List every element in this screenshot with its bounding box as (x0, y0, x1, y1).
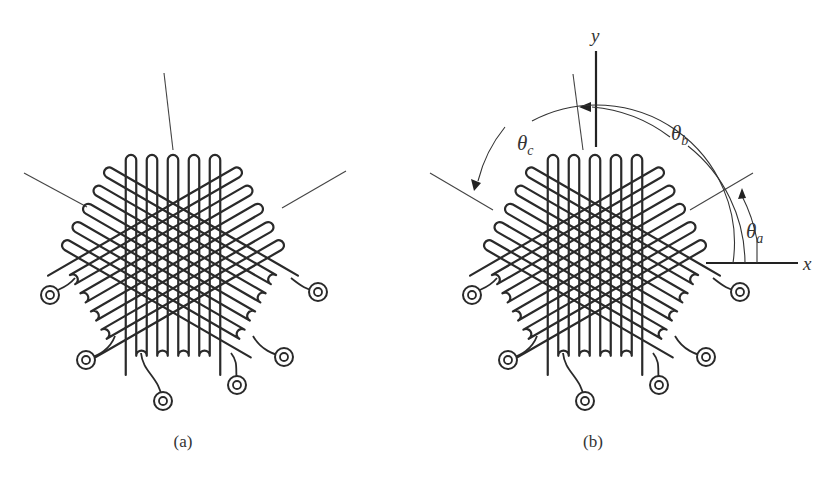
theta-a-label: θa (746, 219, 763, 246)
solder-pad-center (736, 288, 744, 296)
y-axis-label: y (589, 25, 600, 46)
theta-b-arrowhead (579, 102, 591, 112)
solder-pad-center (702, 353, 710, 361)
panel-a-caption: (a) (174, 432, 193, 451)
solder-pad-center (280, 353, 288, 361)
panel-b-lead-wires (463, 278, 749, 410)
panel-a-left-reference-line (24, 173, 87, 207)
panel-b-gauge-c-reference-line (573, 74, 583, 150)
x-axis-label: x (802, 253, 812, 274)
panel-a-lead-wires (41, 278, 327, 410)
panel-b-caption: (b) (583, 432, 603, 451)
panel-a-rosette: (a) (24, 73, 346, 451)
solder-pad-center (655, 381, 663, 389)
solder-pad-center (504, 356, 512, 364)
solder-pad-center (314, 288, 322, 296)
theta-b-label: θb (671, 121, 688, 148)
solder-pad-center (581, 397, 589, 405)
panel-b-reference-lines (430, 74, 753, 210)
panel-b-rosette-with-axes: y x θb θc θa (b) (430, 25, 812, 451)
theta-c-arrowhead (471, 179, 481, 191)
solder-pad-center (233, 381, 241, 389)
panel-a-vertical-reference-line (164, 73, 173, 150)
theta-a-arrowhead (738, 188, 746, 199)
panel-b-gauge-grids (470, 155, 720, 375)
panel-a-right-reference-line (282, 171, 346, 208)
theta-c-arc (478, 105, 734, 263)
panel-b-gauge-a-reference-line (690, 173, 753, 210)
panel-a-reference-lines (24, 73, 346, 208)
panel-a-gauge-grids (48, 155, 298, 375)
solder-pad-center (46, 291, 54, 299)
panel-b-gauge-c-left-line (430, 173, 493, 210)
strain-gauge-rosette-figure: (a) y x θb θc θa (b) (0, 0, 823, 482)
solder-pad-center (159, 397, 167, 405)
theta-c-label: θc (517, 131, 534, 158)
solder-pad-center (82, 356, 90, 364)
solder-pad-center (468, 291, 476, 299)
